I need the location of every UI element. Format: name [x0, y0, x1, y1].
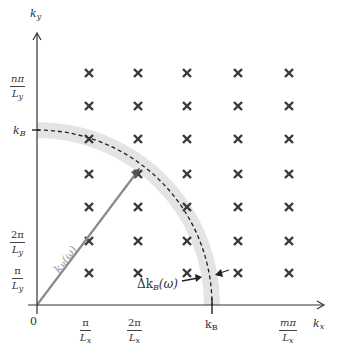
lattice-point [85, 203, 93, 211]
lattice-point [183, 102, 191, 110]
lattice-point [183, 69, 191, 77]
lattice-point [234, 203, 242, 211]
origin-label: 0 [30, 316, 37, 327]
x-tick-mpi-over-lx: mπ Lx [279, 318, 297, 345]
kx-axis-label: kx [313, 318, 324, 331]
shell-band [37, 122, 220, 305]
lattice-point [183, 170, 191, 178]
lattice-point [234, 69, 242, 77]
lattice-point [134, 135, 142, 143]
lattice-point [134, 203, 142, 211]
y-tick-2pi-over-ly: 2π Ly [10, 230, 25, 257]
lattice-point [183, 269, 191, 277]
lattice-point [234, 135, 242, 143]
ky-axis-label: ky [30, 8, 41, 21]
lattice-point [134, 102, 142, 110]
kb-y-label: kB [13, 125, 26, 138]
kb-x-label: kB [205, 319, 218, 332]
lattice-point [234, 237, 242, 245]
lattice-point [85, 269, 93, 277]
lattice-point [234, 269, 242, 277]
lattice-point [134, 269, 142, 277]
lattice-point [234, 102, 242, 110]
lattice-diagram: ky kx 0 π Ly 2π Ly nπ Ly kB π Lx 2π Lx m… [0, 0, 341, 355]
shell-arrow-left-head [195, 274, 202, 282]
shell-thickness-label: ΔkB(ω) [137, 278, 178, 292]
diagram-graphics [0, 0, 341, 355]
y-tick-pi-over-ly: π Ly [12, 266, 23, 293]
lattice-point [285, 102, 293, 110]
lattice-point [285, 269, 293, 277]
lattice-point [285, 203, 293, 211]
x-tick-2pi-over-lx: 2π Lx [127, 318, 142, 345]
lattice-point [183, 237, 191, 245]
lattice-point [85, 102, 93, 110]
lattice-point [85, 69, 93, 77]
lattice-point [134, 237, 142, 245]
lattice-point [183, 135, 191, 143]
lattice-points [85, 69, 293, 277]
x-tick-pi-over-lx: π Lx [80, 318, 91, 345]
lattice-point [285, 170, 293, 178]
lattice-point [285, 135, 293, 143]
lattice-point [85, 170, 93, 178]
lattice-point [285, 69, 293, 77]
radius-line [37, 172, 137, 305]
lattice-point [134, 69, 142, 77]
lattice-point [234, 170, 242, 178]
y-tick-npi-over-ly: nπ Ly [10, 74, 25, 101]
lattice-point [285, 237, 293, 245]
